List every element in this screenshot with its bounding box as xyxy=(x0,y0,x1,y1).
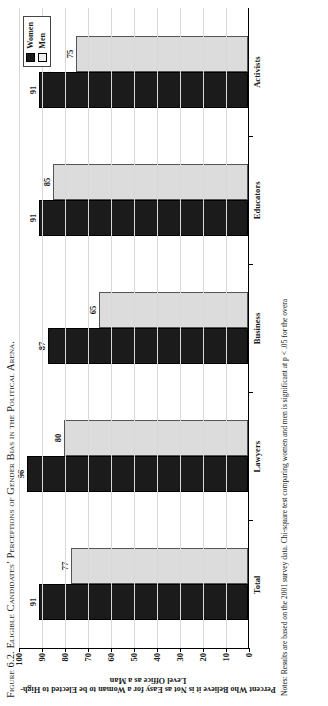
bar-value-label: 85 xyxy=(42,178,52,187)
bar-value-label: 75 xyxy=(65,50,75,59)
bar-women: 96 xyxy=(27,456,248,492)
figure-note: Notes: Results are based on the 2001 sur… xyxy=(280,6,289,700)
gridline xyxy=(111,8,112,648)
figure-title-text: Eligible Candidates’ Perceptions of Gend… xyxy=(5,341,16,649)
legend-swatch-men-icon xyxy=(38,53,47,62)
gridline xyxy=(88,8,89,648)
figure-note-text: Notes: Results are based on the 2001 sur… xyxy=(280,299,289,696)
y-tick-mark xyxy=(42,648,43,652)
y-tick-mark xyxy=(180,648,181,652)
gridline xyxy=(180,8,181,648)
y-tick-mark xyxy=(249,648,250,652)
gridline xyxy=(134,8,135,648)
y-tick-mark xyxy=(134,648,135,652)
legend-item-women: Women xyxy=(26,22,35,62)
plot-area: Percent Who Believe it is Not as Easy fo… xyxy=(19,6,277,698)
bar-men: 85 xyxy=(53,164,249,200)
legend-label-men: Men xyxy=(39,33,47,49)
x-category-label: Educators xyxy=(251,136,263,264)
bar-value-label: 91 xyxy=(28,598,38,607)
y-tick-label: 60 xyxy=(106,653,116,662)
gridline xyxy=(65,8,66,648)
bar-men: 80 xyxy=(64,420,248,456)
bar-men: 75 xyxy=(76,36,249,72)
y-tick-mark xyxy=(88,648,89,652)
y-tick-label: 0 xyxy=(244,653,254,657)
bar-value-label: 91 xyxy=(28,86,38,95)
x-category-label: Activists xyxy=(251,8,263,136)
y-tick-label: 40 xyxy=(152,653,162,662)
legend-swatch-women-icon xyxy=(26,53,35,62)
chart-canvas: Women Men 91779680876591859175 xyxy=(19,8,249,649)
figure-container: Figure 6.2. Eligible Candidates’ Percept… xyxy=(0,0,328,706)
bar-value-label: 96 xyxy=(16,470,26,479)
y-tick-mark xyxy=(111,648,112,652)
y-tick-mark xyxy=(19,648,20,652)
gridline xyxy=(203,8,204,648)
bar-value-label: 80 xyxy=(53,434,63,443)
y-tick-label: 90 xyxy=(37,653,47,662)
bar-value-label: 65 xyxy=(88,306,98,315)
gridline xyxy=(226,8,227,648)
figure-caption: Figure 6.2. Eligible Candidates’ Percept… xyxy=(4,6,17,698)
bar-women: 91 xyxy=(39,584,248,620)
y-tick-label: 20 xyxy=(198,653,208,662)
y-tick-label: 100 xyxy=(14,653,24,666)
bar-women: 91 xyxy=(39,200,248,236)
y-tick-label: 30 xyxy=(175,653,185,662)
y-tick-mark xyxy=(226,648,227,652)
y-axis-tick-labels: 1009080706050403020100 xyxy=(19,650,249,672)
bar-men: 77 xyxy=(71,548,248,584)
gridline xyxy=(42,8,43,648)
x-category-label: Business xyxy=(251,264,263,392)
bar-women: 87 xyxy=(48,328,248,364)
y-tick-label: 50 xyxy=(129,653,139,662)
y-tick-label: 10 xyxy=(221,653,231,662)
legend-label-women: Women xyxy=(27,22,35,49)
bar-value-label: 91 xyxy=(28,214,38,223)
legend-item-men: Men xyxy=(38,22,47,62)
x-category-label: Lawyers xyxy=(251,393,263,521)
y-tick-mark xyxy=(157,648,158,652)
y-tick-mark xyxy=(203,648,204,652)
bar-women: 91 xyxy=(39,72,248,108)
y-tick-label: 70 xyxy=(83,653,93,662)
gridline xyxy=(157,8,158,648)
x-axis-category-labels: TotalLawyersBusinessEducatorsActivists xyxy=(251,8,263,649)
y-axis-label: Percent Who Believe it is Not as Easy fo… xyxy=(19,672,277,698)
chart-legend: Women Men xyxy=(23,16,51,67)
gridline xyxy=(19,8,20,648)
y-tick-label: 80 xyxy=(60,653,70,662)
x-category-label: Total xyxy=(251,521,263,649)
y-tick-mark xyxy=(65,648,66,652)
rotated-page-wrapper: Figure 6.2. Eligible Candidates’ Percept… xyxy=(0,0,328,706)
